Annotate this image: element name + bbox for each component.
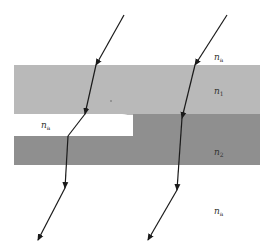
label-na-bottom: na <box>214 206 224 217</box>
air-gap <box>14 114 133 136</box>
layer-n2-right <box>133 114 260 165</box>
speck <box>110 100 112 102</box>
label-na-top: na <box>214 52 224 63</box>
refraction-diagram: na n1 na n2 na <box>0 0 269 252</box>
